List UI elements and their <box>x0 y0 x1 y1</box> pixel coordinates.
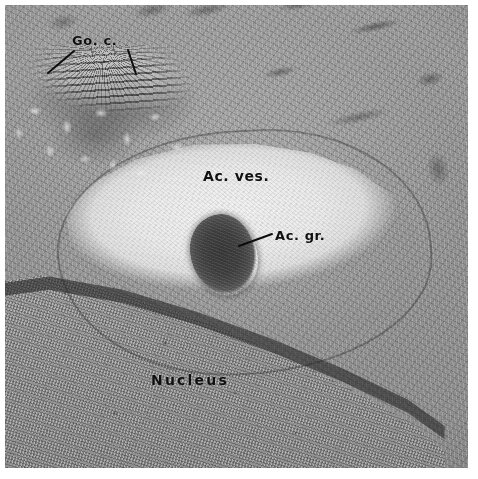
film-grain-overlay <box>5 5 468 468</box>
micrograph-plate <box>5 5 468 468</box>
label-acrosomal-granule: Ac. gr. <box>275 228 325 243</box>
label-acrosomal-vesicle: Ac. ves. <box>203 168 269 184</box>
label-nucleus: Nucleus <box>151 372 229 388</box>
micrograph-figure: Go. c. Ac. ves. Ac. gr. Nucleus <box>0 0 478 479</box>
label-golgi-complex: Go. c. <box>72 33 117 48</box>
